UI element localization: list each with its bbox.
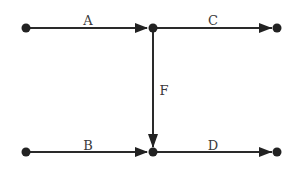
node-n4 <box>22 148 31 157</box>
edge-label-a: A <box>82 13 93 28</box>
arrowhead-icon <box>148 134 158 148</box>
flow-diagram: A C F B D <box>0 0 297 172</box>
arrowhead-icon <box>135 23 148 33</box>
arrowhead-icon <box>259 147 272 157</box>
node-n3 <box>273 24 282 33</box>
edge-label-d: D <box>208 138 218 153</box>
node-n6 <box>273 148 282 157</box>
node-n1 <box>22 24 31 33</box>
edge-d: D <box>153 138 272 157</box>
node-n5 <box>149 148 158 157</box>
edge-b: B <box>26 138 148 157</box>
arrowhead-icon <box>135 147 148 157</box>
node-n2 <box>149 24 158 33</box>
edge-f: F <box>148 28 169 148</box>
edge-a: A <box>26 13 148 33</box>
edge-label-b: B <box>83 138 93 153</box>
edge-label-f: F <box>159 83 168 98</box>
edge-c: C <box>153 13 272 33</box>
arrowhead-icon <box>259 23 272 33</box>
edge-label-c: C <box>208 13 218 28</box>
